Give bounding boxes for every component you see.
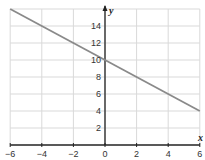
tick-labels: −6−4−202462468101214: [5, 21, 202, 159]
y-tick-label: 8: [96, 72, 101, 82]
x-tick-label: 4: [166, 149, 171, 159]
y-axis-arrow-icon: [103, 5, 108, 11]
y-axis-label: y: [108, 5, 114, 16]
y-tick-label: 12: [91, 38, 101, 48]
x-tick-label: −4: [37, 149, 47, 159]
line-chart: −6−4−202462468101214 x y: [0, 0, 205, 160]
x-tick-label: 0: [102, 149, 107, 159]
x-axis-label: x: [197, 132, 203, 143]
y-tick-label: 6: [96, 89, 101, 99]
y-tick-label: 4: [96, 106, 101, 116]
y-tick-label: 14: [91, 21, 101, 31]
x-tick-label: −6: [5, 149, 15, 159]
x-tick-label: 2: [134, 149, 139, 159]
y-tick-label: 10: [91, 55, 101, 65]
y-tick-label: 2: [96, 123, 101, 133]
x-tick-label: 6: [197, 149, 202, 159]
x-tick-label: −2: [68, 149, 78, 159]
